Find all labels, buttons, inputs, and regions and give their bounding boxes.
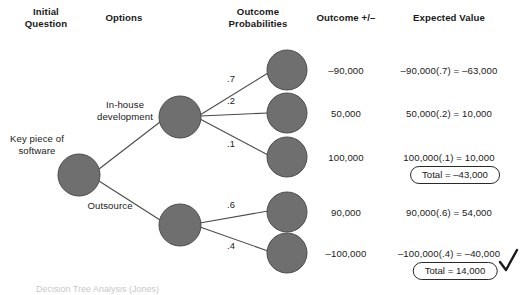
root-label-line2: software bbox=[10, 145, 64, 157]
edge-in-house-to-p2 bbox=[200, 113, 268, 116]
outcome-value-2: 50,000 bbox=[331, 108, 361, 120]
probability-label-5: .4 bbox=[227, 240, 235, 252]
edge-in-house-to-p1 bbox=[200, 119, 268, 155]
selection-check-mark bbox=[500, 250, 517, 270]
decision-tree-figure: Initial Question Options Outcome Probabi… bbox=[0, 0, 523, 295]
outcome-value-3: 100,000 bbox=[328, 152, 363, 164]
node-outcome-4 bbox=[267, 192, 307, 232]
figure-caption-strip: Decision Tree Analysis (Jones) bbox=[0, 286, 523, 295]
column-header-line1: Expected Value bbox=[413, 12, 485, 24]
column-header-initial-question: Initial Question bbox=[25, 6, 67, 29]
column-header-line1: Options bbox=[106, 12, 143, 24]
option-label-in-house-development: In-house development bbox=[97, 99, 153, 122]
column-header-line1: Outcome +/– bbox=[317, 12, 376, 24]
node-outsource bbox=[159, 204, 201, 246]
node-outcome-3 bbox=[267, 137, 307, 177]
edge-outsource-to-p6 bbox=[200, 211, 268, 223]
node-outcome-5 bbox=[267, 233, 307, 273]
option-label-outsource: Outsource bbox=[87, 200, 132, 212]
column-header-expected-value: Expected Value bbox=[413, 12, 485, 24]
option-label-line2: development bbox=[97, 111, 153, 123]
expected-value-1: –90,000(.7) = –63,000 bbox=[401, 65, 498, 77]
probability-label-4: .6 bbox=[227, 199, 235, 211]
root-label-line1: Key piece of bbox=[10, 133, 64, 145]
expected-value-3: 100,000(.1) = 10,000 bbox=[403, 152, 494, 164]
probability-label-1: .7 bbox=[227, 73, 235, 85]
total-outsource: Total = 14,000 bbox=[413, 262, 498, 280]
column-header-outcome-probabilities: Outcome Probabilities bbox=[229, 6, 288, 29]
node-in-house-development bbox=[159, 96, 201, 138]
check-mark-icon bbox=[500, 250, 517, 270]
expected-value-5: –100,000(.4) = –40,000 bbox=[398, 248, 500, 260]
column-header-outcome-plus-minus: Outcome +/– bbox=[317, 12, 376, 24]
node-outcome-1 bbox=[267, 50, 307, 90]
probability-label-3: .1 bbox=[227, 138, 235, 150]
outcome-value-5: –100,000 bbox=[326, 248, 367, 260]
probability-label-2: .2 bbox=[227, 95, 235, 107]
root-question-label: Key piece of software bbox=[10, 133, 64, 156]
expected-value-4: 90,000(.6) = 54,000 bbox=[406, 207, 492, 219]
figure-caption: Decision Tree Analysis (Jones) bbox=[36, 286, 159, 294]
column-header-line2: Question bbox=[25, 18, 67, 30]
nodes bbox=[58, 50, 307, 273]
outcome-value-4: 90,000 bbox=[331, 207, 361, 219]
column-header-options: Options bbox=[106, 12, 143, 24]
column-header-line1: Outcome bbox=[229, 6, 288, 18]
edge-root-to-in-house bbox=[99, 122, 160, 169]
expected-value-2: 50,000(.2) = 10,000 bbox=[406, 108, 492, 120]
column-header-line1: Initial bbox=[25, 6, 67, 18]
column-header-line2: Probabilities bbox=[229, 18, 288, 30]
option-label-line1: Outsource bbox=[87, 200, 132, 212]
outcome-value-1: –90,000 bbox=[328, 65, 363, 77]
option-label-line1: In-house bbox=[97, 99, 153, 111]
node-outcome-2 bbox=[267, 93, 307, 133]
node-root bbox=[58, 154, 100, 196]
total-in-house-development: Total = –43,000 bbox=[410, 166, 500, 184]
